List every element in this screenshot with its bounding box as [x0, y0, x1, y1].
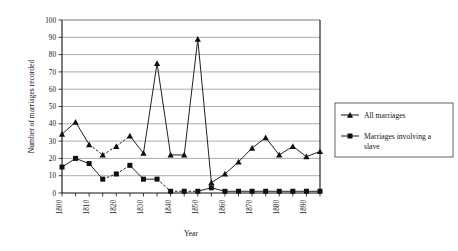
data-point-marker [263, 189, 268, 194]
y-tick-label-10: 10 [49, 172, 57, 180]
data-point-marker [86, 141, 92, 147]
data-point-marker [127, 163, 132, 168]
x-tick-label-1880: 1880 [273, 200, 281, 215]
data-point-marker [290, 189, 295, 194]
y-tick-label-0: 0 [52, 190, 56, 198]
series-segment-0-9 [184, 39, 198, 155]
x-tick-label-1820: 1820 [110, 200, 118, 215]
y-tick-label-40: 40 [49, 120, 57, 128]
chart-container: 0102030405060708090100180018101820183018… [0, 0, 458, 251]
data-point-marker [277, 189, 282, 194]
x-tick-label-1810: 1810 [83, 200, 91, 215]
data-point-marker [168, 189, 173, 194]
y-tick-label-30: 30 [49, 138, 57, 146]
data-point-marker [114, 171, 119, 176]
data-point-marker [87, 161, 92, 166]
y-tick-label-70: 70 [49, 69, 57, 77]
y-tick-label-60: 60 [49, 86, 57, 94]
data-point-marker [73, 156, 78, 161]
y-tick-label-90: 90 [49, 34, 57, 42]
data-point-marker [154, 60, 160, 66]
x-tick-label-1850: 1850 [192, 200, 200, 215]
data-point-marker [222, 189, 227, 194]
data-point-marker [141, 177, 146, 182]
data-point-marker [318, 189, 323, 194]
y-tick-label-50: 50 [49, 103, 57, 111]
x-tick-label-1830: 1830 [137, 200, 145, 215]
data-point-marker [100, 177, 105, 182]
data-point-marker [127, 133, 133, 139]
data-point-marker [195, 36, 201, 42]
series-segment-0-10 [198, 39, 212, 183]
data-point-marker [250, 189, 255, 194]
y-tick-label-100: 100 [45, 17, 56, 25]
x-tick-label-1870: 1870 [246, 200, 254, 215]
data-point-marker [195, 189, 200, 194]
legend-label-1: Marriages involving a [364, 132, 432, 141]
legend-label-1-cont: slave [364, 142, 380, 151]
data-point-marker [317, 148, 323, 154]
y-tick-label-20: 20 [49, 155, 57, 163]
y-tick-label-80: 80 [49, 51, 57, 59]
data-point-marker [209, 185, 214, 190]
data-point-marker [155, 177, 160, 182]
data-point-marker [263, 135, 269, 141]
legend-label-0: All marriages [364, 111, 406, 120]
data-point-marker [72, 119, 78, 125]
data-point-marker [182, 189, 187, 194]
y-axis-title: Number of marriages recorded [27, 60, 36, 154]
data-point-marker [113, 143, 119, 149]
data-point-marker [290, 143, 296, 149]
x-tick-label-1890: 1890 [300, 200, 308, 215]
data-point-marker [304, 189, 309, 194]
data-point-marker [60, 165, 65, 170]
x-tick-label-1800: 1800 [56, 200, 64, 215]
x-axis-title: Year [184, 229, 198, 238]
series-segment-0-6 [143, 63, 157, 153]
legend-square-icon [348, 134, 353, 139]
data-point-marker [236, 189, 241, 194]
data-point-marker [208, 180, 214, 186]
x-tick-label-1840: 1840 [165, 200, 173, 215]
x-tick-label-1860: 1860 [219, 200, 227, 215]
line-chart: 0102030405060708090100180018101820183018… [0, 0, 458, 251]
